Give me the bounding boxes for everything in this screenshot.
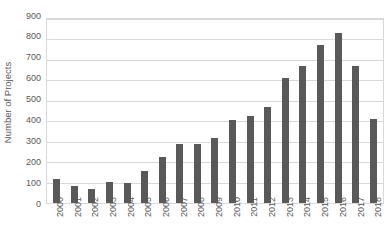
x-axis-tick-label: 2010 (233, 197, 242, 217)
x-axis-tick-label: 2005 (144, 197, 153, 217)
bar-slot (364, 19, 382, 203)
x-tick-slot: 2014 (295, 205, 313, 247)
x-tick-slot: 2016 (330, 205, 348, 247)
x-axis-tick-label: 2004 (127, 197, 136, 217)
bar-chart: Number of Projects 010020030040050060070… (0, 0, 391, 248)
y-axis-tick-label: 900 (26, 12, 41, 21)
x-axis-tick-label: 2014 (303, 197, 312, 217)
bar (317, 45, 324, 203)
x-axis-tick-label: 2011 (250, 197, 259, 216)
x-tick-slot: 2004 (118, 205, 136, 247)
y-axis-tick-label: 0 (36, 200, 41, 209)
bar (282, 78, 289, 203)
bar-slot (83, 19, 101, 203)
x-axis-tick-label: 2008 (197, 197, 206, 217)
x-tick-slot: 2018 (365, 205, 383, 247)
bar (247, 116, 254, 204)
x-tick-slot: 2009 (206, 205, 224, 247)
bar (176, 144, 183, 203)
y-axis-tick-label: 100 (26, 179, 41, 188)
x-axis-tick-label: 2017 (357, 197, 366, 217)
bar (299, 66, 306, 203)
bar (264, 107, 271, 203)
x-tick-slot: 2008 (189, 205, 207, 247)
x-tick-slot: 2010 (224, 205, 242, 247)
x-tick-slot: 2013 (277, 205, 295, 247)
bar-slot (312, 19, 330, 203)
x-tick-slot: 2011 (242, 205, 260, 247)
bar-slot (206, 19, 224, 203)
bar-slot (171, 19, 189, 203)
x-axis-tick-label: 2003 (109, 197, 118, 217)
x-tick-slot: 2001 (65, 205, 83, 247)
x-axis-tick-label: 2015 (321, 197, 330, 217)
x-axis-tick-label: 2002 (91, 197, 100, 217)
y-axis-title-text: Number of Projects (3, 61, 14, 142)
bar-slot (136, 19, 154, 203)
x-axis-tick-label: 2000 (56, 197, 65, 217)
bar-slot (153, 19, 171, 203)
x-tick-slot: 2007 (171, 205, 189, 247)
plot-area (46, 18, 384, 204)
x-tick-slot: 2000 (47, 205, 65, 247)
bar (194, 144, 201, 203)
bar-slot (118, 19, 136, 203)
bar-slot (329, 19, 347, 203)
x-axis-tick-label: 2009 (215, 197, 224, 217)
bar-slot (224, 19, 242, 203)
x-axis-tick-label: 2013 (286, 197, 295, 217)
x-axis-tick-label: 2012 (268, 197, 277, 217)
bars-container (47, 19, 383, 203)
bar-slot (48, 19, 66, 203)
y-axis-tick-label: 200 (26, 158, 41, 167)
y-axis-tick-labels: 0100200300400500600700800900 (16, 16, 44, 204)
x-tick-slot: 2006 (153, 205, 171, 247)
x-axis-tick-label: 2007 (180, 197, 189, 217)
bar-slot (101, 19, 119, 203)
bar-slot (259, 19, 277, 203)
bar (352, 66, 359, 203)
bar-slot (347, 19, 365, 203)
x-tick-slot: 2012 (259, 205, 277, 247)
y-axis-tick-label: 300 (26, 137, 41, 146)
bar-slot (241, 19, 259, 203)
bar-slot (66, 19, 84, 203)
y-axis-tick-label: 400 (26, 116, 41, 125)
y-axis-tick-label: 800 (26, 32, 41, 41)
bar (229, 120, 236, 203)
bar-slot (189, 19, 207, 203)
x-axis-tick-label: 2016 (339, 197, 348, 217)
y-axis-title: Number of Projects (0, 0, 16, 204)
x-tick-slot: 2017 (348, 205, 366, 247)
bar (335, 33, 342, 203)
x-axis-tick-labels: 2000200120022003200420052006200720082009… (46, 205, 384, 247)
x-axis-tick-label: 2001 (74, 197, 83, 217)
x-tick-slot: 2015 (312, 205, 330, 247)
y-axis-tick-label: 500 (26, 95, 41, 104)
bar-slot (294, 19, 312, 203)
bar (211, 138, 218, 203)
y-axis-tick-label: 700 (26, 53, 41, 62)
x-tick-slot: 2002 (82, 205, 100, 247)
bar-slot (277, 19, 295, 203)
x-tick-slot: 2003 (100, 205, 118, 247)
bar (370, 119, 377, 203)
x-axis-tick-label: 2006 (162, 197, 171, 217)
x-axis-tick-label: 2018 (374, 197, 383, 217)
y-axis-tick-label: 600 (26, 74, 41, 83)
x-tick-slot: 2005 (135, 205, 153, 247)
